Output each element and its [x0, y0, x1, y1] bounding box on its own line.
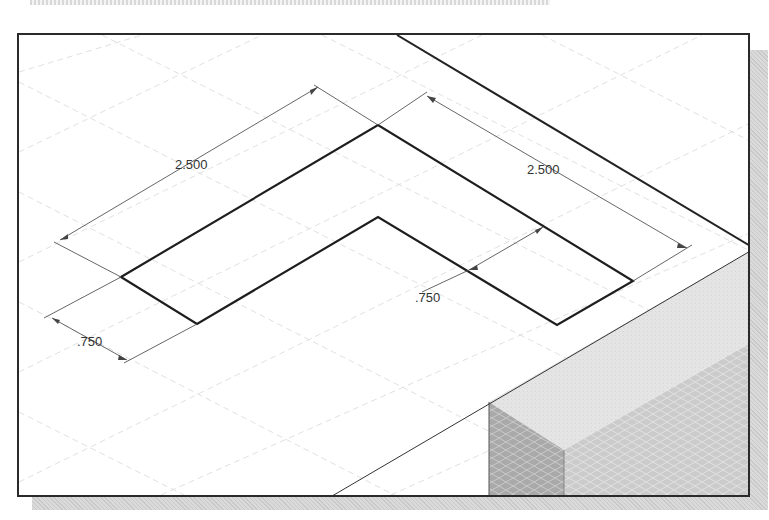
l-shape-sketch-profile[interactable]: [121, 125, 633, 325]
cad-graphics-viewport[interactable]: 2.500 2.500 .750 .750: [17, 33, 750, 497]
dimension-arrows: [52, 87, 687, 360]
dimension-label-inner-width[interactable]: .750: [415, 290, 440, 305]
top-edge-strip: [30, 0, 550, 5]
solid-block[interactable]: [489, 250, 750, 497]
plane-edge-line-top: [397, 35, 750, 247]
dimension-label-right-length[interactable]: 2.500: [527, 162, 560, 177]
dimension-label-left-width[interactable]: .750: [77, 334, 102, 349]
sketch-canvas[interactable]: 2.500 2.500 .750 .750: [19, 35, 750, 497]
dimension-label-left-length[interactable]: 2.500: [175, 157, 208, 172]
